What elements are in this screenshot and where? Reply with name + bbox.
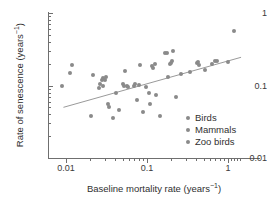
- regression-trend-line: [0, 0, 267, 200]
- legend-marker-icon: [186, 128, 190, 132]
- legend-item-mammals: Mammals: [186, 124, 260, 135]
- legend-item-zoo-birds: Zoo birds: [186, 136, 260, 147]
- legend-marker-icon: [186, 116, 190, 120]
- legend-label-mammals: Mammals: [195, 125, 236, 135]
- chart-legend: Birds Mammals Zoo birds: [186, 112, 260, 148]
- scatter-chart-figure: 1 0.1 0.01 0.01 0.1 1 Baseline mortality…: [0, 0, 267, 200]
- legend-marker-icon: [186, 140, 190, 144]
- legend-item-birds: Birds: [186, 112, 260, 123]
- legend-label-birds: Birds: [195, 113, 217, 123]
- legend-label-zoo-birds: Zoo birds: [195, 137, 235, 147]
